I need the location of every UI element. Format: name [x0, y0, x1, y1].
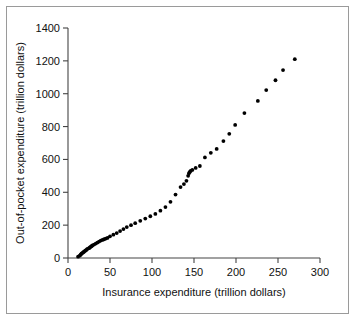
data-point [227, 132, 231, 136]
data-point [179, 185, 183, 189]
axes [68, 28, 320, 258]
x-tick-label: 50 [104, 266, 116, 278]
data-point [164, 205, 168, 209]
x-tick-label: 0 [65, 266, 71, 278]
data-point [143, 217, 147, 221]
data-point [182, 182, 186, 186]
y-tick-label: 1000 [36, 88, 60, 100]
x-axis-tick-labels: 050100150200250300 [65, 266, 329, 278]
data-point [111, 233, 115, 237]
data-point [215, 147, 219, 151]
data-point [203, 156, 207, 160]
data-point [233, 123, 237, 127]
y-axis-tick-labels: 0200400600800100012001400 [36, 22, 60, 264]
data-point [115, 231, 119, 235]
y-tick-label: 600 [42, 153, 60, 165]
y-axis-ticks [63, 28, 68, 258]
y-tick-label: 200 [42, 219, 60, 231]
data-point [194, 166, 198, 170]
data-point [274, 78, 278, 82]
x-axis-title: Insurance expenditure (trillion dollars) [102, 286, 285, 298]
x-tick-label: 100 [143, 266, 161, 278]
data-point [138, 219, 142, 223]
data-point [125, 225, 129, 229]
data-point [293, 57, 297, 61]
y-tick-label: 1400 [36, 22, 60, 34]
data-point [190, 168, 194, 172]
x-tick-label: 150 [185, 266, 203, 278]
x-tick-label: 300 [311, 266, 329, 278]
data-point [243, 111, 247, 115]
data-point [153, 212, 157, 216]
data-point [148, 214, 152, 218]
x-tick-label: 200 [227, 266, 245, 278]
data-point [222, 139, 226, 143]
data-point [122, 227, 126, 231]
data-point [174, 193, 178, 197]
y-tick-label: 400 [42, 186, 60, 198]
data-point [264, 88, 268, 92]
data-point [133, 221, 137, 225]
data-point [209, 151, 213, 155]
y-tick-label: 800 [42, 121, 60, 133]
data-point [185, 179, 189, 183]
data-point [118, 229, 122, 233]
data-point [198, 164, 202, 168]
data-point [256, 99, 260, 103]
figure-container: 050100150200250300 020040060080010001200… [0, 0, 355, 320]
x-tick-label: 250 [269, 266, 287, 278]
data-point [169, 200, 173, 204]
data-point [108, 234, 112, 238]
y-tick-label: 0 [54, 252, 60, 264]
scatter-chart: 050100150200250300 020040060080010001200… [0, 0, 355, 320]
y-tick-label: 1200 [36, 55, 60, 67]
y-axis-title: Out-of-pocket expenditure (trillion doll… [14, 42, 26, 244]
data-point [159, 209, 163, 213]
x-axis-ticks [68, 258, 320, 263]
data-point [281, 68, 285, 72]
data-point-group [76, 57, 297, 258]
data-point [129, 223, 133, 227]
